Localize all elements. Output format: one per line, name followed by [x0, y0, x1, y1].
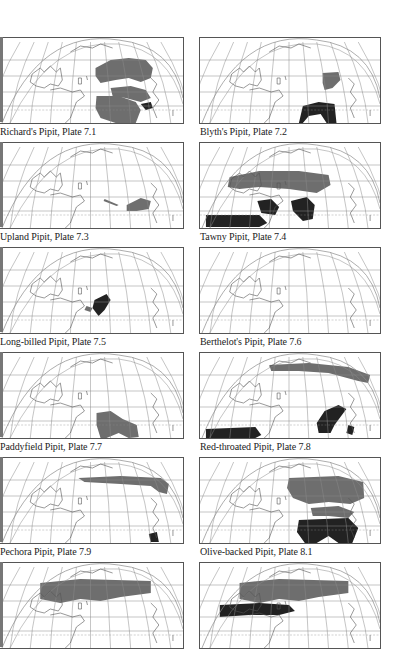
map-caption: Pechora Pipit, Plate 7.9 [0, 546, 91, 557]
range-map-tawny [199, 142, 381, 229]
map-caption: Paddyfield Pipit, Plate 7.7 [0, 441, 102, 452]
page-edge-strip [0, 457, 3, 542]
range-map-richards [0, 37, 184, 124]
range-map-pechora [0, 457, 184, 544]
map-caption: Olive-backed Pipit, Plate 8.1 [200, 546, 312, 557]
page-edge-strip [0, 142, 3, 227]
range-map-redthroated [199, 352, 381, 439]
map-caption: Richard's Pipit, Plate 7.1 [0, 126, 96, 137]
page-edge-strip [0, 247, 3, 332]
map-caption: Long-billed Pipit, Plate 7.5 [0, 336, 106, 347]
range-map-blyths [199, 37, 381, 124]
map-caption: Blyth's Pipit, Plate 7.2 [200, 126, 287, 137]
range-map-tree [199, 562, 381, 649]
range-map-upland [0, 142, 184, 229]
map-caption: Upland Pipit, Plate 7.3 [0, 231, 89, 242]
range-map-paddyfield [0, 352, 184, 439]
range-map-meadow [0, 562, 184, 649]
range-map-longbilled [0, 247, 184, 334]
range-map-olivebacked [199, 457, 381, 544]
range-map-berthelots [199, 247, 381, 334]
page-edge-strip [0, 37, 3, 122]
page-edge-strip [0, 562, 3, 647]
page-edge-strip [0, 352, 3, 437]
map-caption: Red-throated Pipit, Plate 7.8 [200, 441, 311, 452]
map-caption: Tawny Pipit, Plate 7.4 [200, 231, 286, 242]
map-caption: Berthelot's Pipit, Plate 7.6 [200, 336, 302, 347]
